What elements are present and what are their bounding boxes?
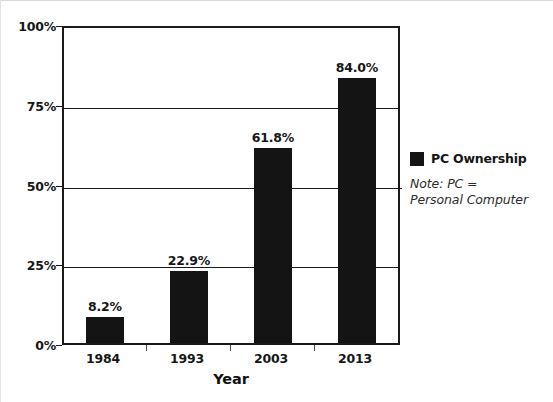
y-tick-label-100: 100% — [4, 21, 56, 34]
x-tick-label-2003: 2003 — [239, 353, 303, 366]
y-axis: 100% 75% 50% 25% 0% — [0, 26, 56, 345]
plot-area: 8.2% 22.9% 61.8% 84.0% — [62, 26, 400, 345]
legend-item-pc-ownership: PC Ownership — [410, 152, 550, 166]
legend: PC Ownership Note: PC = Personal Compute… — [410, 152, 550, 208]
bar-1993[interactable] — [170, 271, 208, 343]
bar-2013[interactable] — [338, 78, 376, 343]
legend-label-pc-ownership: PC Ownership — [431, 153, 527, 166]
bar-chart-figure: 100% 75% 50% 25% 0% 8.2% 22.9% 61.8% 84.… — [0, 0, 553, 402]
x-tick-mark-3 — [314, 345, 315, 351]
x-axis-title: Year — [62, 371, 400, 387]
x-axis: 1984 1993 2003 2013 — [62, 345, 400, 367]
bar-value-1984: 8.2% — [73, 301, 137, 314]
legend-note-line-1: Note: PC = — [410, 176, 542, 192]
bar-value-2003: 61.8% — [241, 132, 305, 145]
x-tick-mark-2 — [230, 345, 231, 351]
legend-swatch-icon — [410, 152, 424, 166]
y-tick-label-75: 75% — [4, 101, 56, 114]
bar-2003[interactable] — [254, 148, 292, 343]
x-tick-mark-1 — [146, 345, 147, 351]
x-tick-label-1984: 1984 — [71, 353, 135, 366]
x-tick-label-2013: 2013 — [323, 353, 387, 366]
bar-value-2013: 84.0% — [325, 62, 389, 75]
y-tick-label-0: 0% — [4, 340, 56, 353]
y-tick-label-50: 50% — [4, 181, 56, 194]
x-tick-label-1993: 1993 — [155, 353, 219, 366]
legend-note: Note: PC = Personal Computer — [410, 176, 542, 208]
bar-1984[interactable] — [86, 317, 124, 343]
scan-edge-top — [0, 0, 553, 1]
legend-note-line-2: Personal Computer — [410, 192, 542, 208]
y-tick-label-25: 25% — [4, 260, 56, 273]
bar-value-1993: 22.9% — [157, 255, 221, 268]
